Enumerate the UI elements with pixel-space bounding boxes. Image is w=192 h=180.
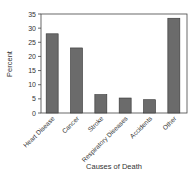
- y-tick-label: 15: [28, 67, 36, 74]
- bar: [95, 95, 107, 113]
- x-category-label: Other: [161, 114, 178, 131]
- bar: [144, 100, 156, 113]
- y-tick-label: 25: [28, 39, 36, 46]
- bar: [119, 98, 131, 113]
- y-tick-label: 30: [28, 25, 36, 32]
- x-axis-category-labels: Heart DiseaseCancerStrokeRespiratory Dis…: [22, 114, 178, 164]
- y-tick-label: 0: [32, 110, 36, 117]
- y-axis-label: Percent: [5, 50, 14, 77]
- bar: [168, 18, 180, 113]
- bars: [46, 18, 180, 113]
- y-axis-ticks: 05101520253035: [28, 11, 41, 117]
- x-category-label: Heart Disease: [22, 114, 56, 148]
- x-category-label: Cancer: [60, 114, 80, 134]
- y-tick-label: 20: [28, 53, 36, 60]
- x-category-label: Accidents: [128, 114, 153, 139]
- plot-frame: [41, 14, 187, 113]
- y-tick-label: 5: [32, 95, 36, 102]
- bar-chart: 05101520253035 Heart DiseaseCancerStroke…: [0, 0, 192, 180]
- plot-area-border: [41, 14, 187, 113]
- x-category-label: Stroke: [86, 114, 105, 133]
- x-category-label: Respiratory Diseases: [80, 114, 130, 164]
- bar: [71, 48, 83, 113]
- bar: [46, 34, 58, 113]
- x-axis-label: Causes of Death: [86, 162, 142, 171]
- y-tick-label: 35: [28, 11, 36, 18]
- y-tick-label: 10: [28, 81, 36, 88]
